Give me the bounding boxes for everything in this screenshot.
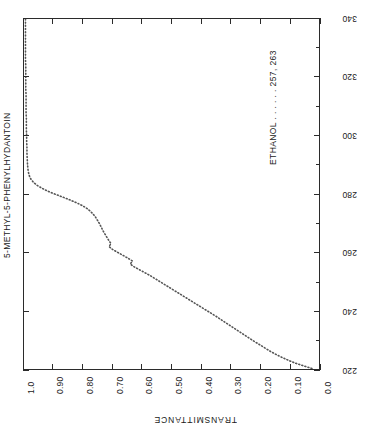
wavelength-tick-right bbox=[314, 252, 320, 253]
wavelength-tick-left bbox=[23, 76, 29, 77]
wavelength-tick-right bbox=[314, 76, 320, 77]
transmittance-tick-label: 0.40 bbox=[205, 377, 214, 394]
wavelength-tick-left bbox=[23, 135, 29, 136]
transmittance-tick-bottom bbox=[112, 364, 113, 370]
wavelength-tick-left bbox=[23, 311, 29, 312]
wavelength-tick-left bbox=[23, 194, 29, 195]
wavelength-minor-tick bbox=[316, 340, 320, 341]
wavelength-tick-label: 260 bbox=[342, 249, 357, 258]
wavelength-tick-label: 280 bbox=[342, 190, 357, 199]
wavelength-minor-tick bbox=[316, 47, 320, 48]
transmittance-tick-bottom bbox=[201, 364, 202, 370]
transmittance-tick-bottom bbox=[171, 364, 172, 370]
transmittance-tick-top bbox=[230, 18, 231, 24]
wavelength-minor-tick bbox=[316, 164, 320, 165]
transmittance-tick-top bbox=[260, 18, 261, 24]
transmittance-tick-bottom bbox=[290, 364, 291, 370]
transmittance-tick-label: 0.30 bbox=[234, 377, 243, 394]
wavelength-tick-right bbox=[314, 135, 320, 136]
transmittance-tick-label: 0.0 bbox=[324, 382, 333, 394]
transmittance-tick-label: 1.0 bbox=[27, 382, 36, 394]
wavelength-tick-label: 340 bbox=[342, 14, 357, 23]
transmittance-tick-bottom bbox=[141, 364, 142, 370]
transmittance-tick-top bbox=[171, 18, 172, 24]
transmittance-tick-label: 0.70 bbox=[116, 377, 125, 394]
transmittance-tick-top bbox=[290, 18, 291, 24]
transmittance-tick-label: 0.50 bbox=[175, 377, 184, 394]
transmittance-tick-label: 0.90 bbox=[56, 377, 65, 394]
transmittance-tick-bottom bbox=[260, 364, 261, 370]
transmittance-tick-top bbox=[320, 18, 321, 24]
transmittance-tick-label: 0.60 bbox=[145, 377, 154, 394]
transmittance-tick-label: 0.80 bbox=[86, 377, 95, 394]
wavelength-tick-right bbox=[314, 311, 320, 312]
transmittance-tick-top bbox=[201, 18, 202, 24]
transmittance-tick-bottom bbox=[82, 364, 83, 370]
transmittance-tick-top bbox=[82, 18, 83, 24]
transmittance-axis-caption: TRANSMITTANCE bbox=[154, 415, 237, 425]
solvent-peaks-annotation: ETHANOL . . . . . . 257, 263 bbox=[268, 50, 278, 165]
wavelength-tick-label: 240 bbox=[342, 307, 357, 316]
wavelength-tick-right bbox=[314, 370, 320, 371]
wavelength-minor-tick bbox=[316, 106, 320, 107]
wavelength-tick-label: 320 bbox=[342, 73, 357, 82]
transmittance-tick-top bbox=[112, 18, 113, 24]
wavelength-tick-left bbox=[23, 370, 29, 371]
transmittance-tick-label: 0.20 bbox=[264, 377, 273, 394]
wavelength-tick-right bbox=[314, 194, 320, 195]
transmittance-tick-top bbox=[23, 18, 24, 24]
wavelength-tick-label: 300 bbox=[342, 131, 357, 140]
wavelength-tick-left bbox=[23, 18, 29, 19]
chart-title: 5-METHYL-5-PHENYLHYDANTOIN bbox=[2, 113, 12, 258]
spectrum-page: 5-METHYL-5-PHENYLHYDANTOIN ETHANOL . . .… bbox=[0, 0, 376, 436]
wavelength-tick-right bbox=[314, 18, 320, 19]
wavelength-tick-left bbox=[23, 252, 29, 253]
transmittance-tick-top bbox=[52, 18, 53, 24]
transmittance-tick-label: 0.10 bbox=[294, 377, 303, 394]
wavelength-minor-tick bbox=[316, 223, 320, 224]
transmittance-tick-bottom bbox=[52, 364, 53, 370]
transmittance-tick-top bbox=[141, 18, 142, 24]
wavelength-tick-label: 220 bbox=[342, 366, 357, 375]
transmittance-tick-bottom bbox=[230, 364, 231, 370]
wavelength-minor-tick bbox=[316, 282, 320, 283]
